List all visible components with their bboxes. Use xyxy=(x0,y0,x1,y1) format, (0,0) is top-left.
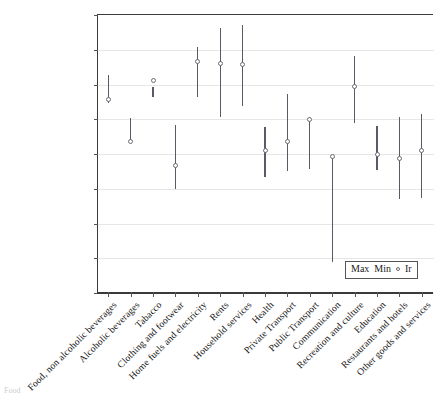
x-tick-mark xyxy=(332,292,333,297)
y-tick-mark xyxy=(94,15,98,16)
legend-label-min: Min xyxy=(374,263,391,276)
x-tick-mark xyxy=(355,292,356,297)
range-bar xyxy=(287,94,288,171)
x-tick-mark xyxy=(198,292,199,297)
range-bar xyxy=(175,125,176,189)
open-circle-icon xyxy=(396,267,400,271)
ir-point-marker xyxy=(330,154,335,159)
ir-point-marker xyxy=(218,61,223,66)
x-tick-mark xyxy=(399,292,400,297)
y-tick-mark xyxy=(94,119,98,120)
y-tick-mark xyxy=(94,50,98,51)
x-tick-mark xyxy=(220,292,221,297)
ir-point-marker xyxy=(352,84,357,89)
y-gridline xyxy=(98,224,434,225)
chart-figure: 0.000−0.200−0.400−0.600−0.800−1.000−1.20… xyxy=(0,0,440,408)
y-gridline xyxy=(98,50,434,51)
range-bar xyxy=(197,47,198,97)
y-tick-mark xyxy=(94,258,98,259)
range-bar xyxy=(152,87,153,97)
y-tick-mark xyxy=(94,189,98,190)
x-tick-label: Food, non alcoholic beverages xyxy=(25,299,119,393)
range-bar xyxy=(220,28,221,117)
x-tick-mark xyxy=(108,292,109,297)
x-tick-mark xyxy=(131,292,132,297)
ir-point-marker xyxy=(151,78,156,83)
y-gridline xyxy=(98,119,434,120)
range-bar xyxy=(354,56,355,124)
legend-label-ir: Ir xyxy=(405,263,412,276)
legend-label-max: Max xyxy=(351,263,369,276)
ir-point-marker xyxy=(240,62,245,67)
ir-point-marker xyxy=(263,148,268,153)
legend-box[interactable]: Max Min Ir xyxy=(345,261,418,279)
range-bar xyxy=(309,117,310,169)
ir-point-marker xyxy=(106,97,111,102)
y-gridline xyxy=(98,189,434,190)
x-tick-mark xyxy=(422,292,423,297)
x-tick-mark xyxy=(377,292,378,297)
ir-point-marker xyxy=(397,156,402,161)
x-tick-mark xyxy=(310,292,311,297)
y-tick-mark xyxy=(94,85,98,86)
ir-point-marker xyxy=(307,117,312,122)
x-tick-mark xyxy=(243,292,244,297)
range-bar xyxy=(332,156,333,261)
x-tick-mark xyxy=(287,292,288,297)
x-tick-mark xyxy=(153,292,154,297)
ir-point-marker xyxy=(375,152,380,157)
range-bar xyxy=(376,126,377,169)
ir-point-marker xyxy=(173,163,178,168)
y-gridline xyxy=(98,154,434,155)
range-bar xyxy=(421,114,422,198)
x-tick-mark xyxy=(175,292,176,297)
y-gridline xyxy=(98,258,434,259)
x-tick-mark xyxy=(265,292,266,297)
y-tick-mark xyxy=(94,154,98,155)
y-tick-mark xyxy=(94,224,98,225)
y-gridline xyxy=(98,85,434,86)
footnote-text: Food xyxy=(4,386,20,395)
